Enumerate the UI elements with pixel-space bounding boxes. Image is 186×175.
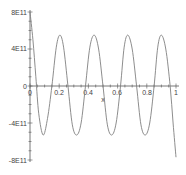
y-tick-label: 0 [23,83,27,90]
y-tick-label: -8E11 [9,157,27,164]
x-tick-label: 0.8 [142,89,152,96]
x-tick-label: 0 [28,89,32,96]
y-tick-label: 4E11 [11,45,27,52]
y-tick-label: -4E11 [9,120,27,127]
data-line [30,12,176,157]
line-chart: 0 0.2 0.4 0.6 0.8 1 x 8E11 4E11 0 -4E11 … [0,0,186,175]
y-tick-label: 8E11 [11,9,27,16]
x-tick-label: 1 [174,89,178,96]
y-tick-labels: 8E11 4E11 0 -4E11 -8E11 [9,9,27,164]
x-tick-label: 0.2 [54,89,64,96]
